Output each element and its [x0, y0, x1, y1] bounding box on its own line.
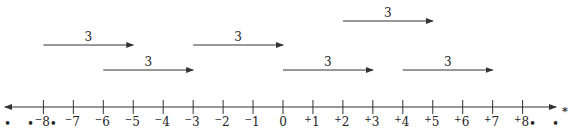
jump-label: 3 — [324, 56, 332, 68]
tick-label: +6 — [454, 116, 469, 128]
tick-label: +2 — [334, 116, 349, 128]
sign: + — [304, 114, 312, 124]
number-line-canvas — [0, 0, 574, 130]
sign: − — [155, 114, 163, 124]
tick-label: −4 — [155, 116, 170, 128]
number: 6 — [462, 115, 470, 129]
tick-label: +8 — [514, 116, 529, 128]
tick-label: +7 — [484, 116, 499, 128]
asterisk-marker: * — [562, 106, 568, 117]
number: 4 — [402, 115, 410, 129]
tick-label: −1 — [244, 116, 259, 128]
tick-label: +4 — [394, 116, 409, 128]
tick-label: +3 — [364, 116, 379, 128]
number: 0 — [279, 115, 287, 129]
number: 4 — [162, 115, 170, 129]
sign: + — [454, 114, 462, 124]
number: 6 — [102, 115, 110, 129]
sign: − — [65, 114, 73, 124]
sign: + — [394, 114, 402, 124]
number-line-diagram: −8−7−6−5−4−3−2−10+1+2+3+4+5+6+7+8 333333… — [0, 0, 574, 130]
tick-label: −2 — [215, 116, 230, 128]
sign: + — [514, 114, 522, 124]
sign: + — [334, 114, 342, 124]
right-ellipsis: • • • — [529, 118, 574, 130]
number: 7 — [72, 115, 80, 129]
tick-label: 0 — [279, 116, 287, 128]
sign: + — [484, 114, 492, 124]
jump-label: 3 — [234, 31, 242, 43]
sign: + — [424, 114, 432, 124]
number: 2 — [222, 115, 230, 129]
jump-label: 3 — [444, 56, 452, 68]
sign: − — [244, 114, 252, 124]
jump-label: 3 — [144, 56, 152, 68]
sign: − — [185, 114, 193, 124]
number: 5 — [132, 115, 140, 129]
tick-label: −3 — [185, 116, 200, 128]
left-ellipsis: • • • — [4, 118, 63, 130]
tick-label: +5 — [424, 116, 439, 128]
number: 5 — [432, 115, 440, 129]
tick-label: −6 — [95, 116, 110, 128]
tick-label: +1 — [304, 116, 319, 128]
jump-label: 3 — [384, 7, 392, 19]
number: 2 — [342, 115, 350, 129]
sign: − — [95, 114, 103, 124]
number: 3 — [192, 115, 200, 129]
jump-label: 3 — [84, 31, 92, 43]
number: 7 — [492, 115, 500, 129]
tick-label: −5 — [125, 116, 140, 128]
sign: − — [215, 114, 223, 124]
number: 3 — [372, 115, 380, 129]
tick-label: −7 — [65, 116, 80, 128]
number: 1 — [252, 115, 260, 129]
number: 1 — [312, 115, 320, 129]
sign: − — [125, 114, 133, 124]
sign: + — [364, 114, 372, 124]
